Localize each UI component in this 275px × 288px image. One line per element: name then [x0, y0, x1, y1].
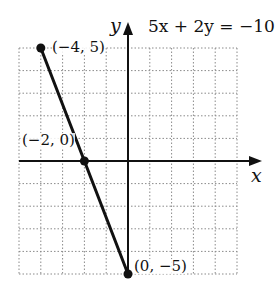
point-label-b: (−2, 0) — [22, 133, 75, 148]
point-label-c: (0, −5) — [134, 259, 187, 274]
y-axis-label: y — [110, 16, 121, 35]
equation-label: 5x + 2y = −10 — [148, 18, 275, 35]
point-label-a: (−4, 5) — [52, 40, 105, 55]
x-axis-label: x — [251, 166, 262, 185]
